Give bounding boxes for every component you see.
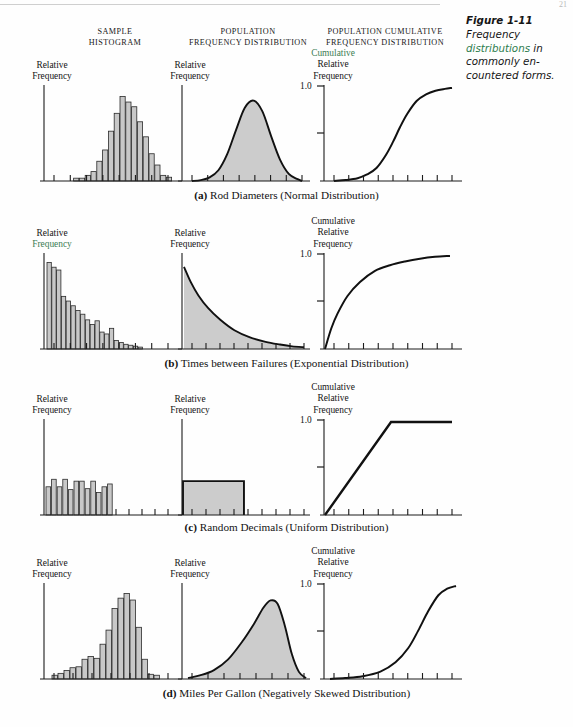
caption-line-2-rest: in [530, 42, 543, 54]
axis-label-relative: Relative [36, 228, 67, 238]
histogram-bars [46, 479, 112, 515]
y-tick-label-c3: 1.0 [300, 415, 312, 425]
chart-d-population-svg [178, 583, 313, 688]
histogram-bar [46, 487, 51, 515]
axis-label-relative: Relative [174, 394, 205, 404]
histogram-bar [105, 334, 109, 349]
axis-label-frequency: Frequency [313, 71, 353, 81]
histogram-bar [112, 609, 117, 680]
axis-label-frequency: Frequency [313, 239, 353, 249]
axis-label-relative: Relative [36, 60, 67, 70]
row-text-a: Rod Diameters (Normal Distribution) [207, 189, 379, 201]
histogram-bar [91, 172, 96, 181]
axis-label-relative: Relative [317, 393, 348, 403]
caption-line-4: countered forms. [466, 69, 555, 81]
chart-a-sample-histogram-svg [40, 85, 185, 190]
histogram-bar [143, 137, 148, 181]
cumulative-curve [325, 422, 452, 515]
histogram-bar [66, 301, 70, 349]
column-heading-line: SAMPLE [45, 26, 185, 37]
cumulative-curve [330, 586, 456, 679]
histogram-bar [118, 598, 123, 679]
caption-keyword: distributions [466, 42, 530, 54]
histogram-bar [97, 161, 102, 181]
histogram-bar [120, 96, 125, 181]
axis-label-cumulative: Cumulative [311, 382, 355, 392]
histogram-bar [76, 667, 81, 679]
chart-c-sample-histogram [40, 419, 185, 524]
y-tick-label-d3: 1.0 [300, 579, 312, 589]
histogram-bar [108, 484, 113, 515]
chart-a-cumulative [320, 85, 465, 190]
histogram-bar [63, 479, 68, 515]
axis-label-frequency: Frequency [32, 405, 72, 415]
histogram-bar [124, 593, 129, 679]
cumulative-curve [325, 256, 450, 349]
axis-label-c3: Cumulative Relative Frequency [288, 382, 378, 416]
chart-d-cumulative [320, 583, 465, 688]
histogram-bar [106, 630, 111, 679]
axis-label-relative: Relative [174, 60, 205, 70]
histogram-bar [57, 487, 62, 515]
axis-label-d3: Cumulative Relative Frequency [288, 546, 378, 580]
histogram-bar [76, 310, 80, 349]
figure-page: 21 SAMPLE HISTOGRAM POPULATION FREQUENCY… [0, 0, 573, 727]
histogram-bar [124, 344, 128, 349]
histogram-bar [155, 165, 160, 181]
histogram-bar [132, 107, 137, 181]
histogram-bars [52, 593, 159, 679]
histogram-bar [100, 644, 105, 679]
axis-label-relative: Relative [317, 557, 348, 567]
y-tick-label-a3: 1.0 [300, 81, 312, 91]
row-tag-d: (d) [163, 687, 177, 699]
chart-b-sample-histogram-svg [40, 253, 185, 358]
axis-label-frequency: Frequency [32, 569, 72, 579]
figure-caption: Figure 1-11 Frequency distributions in c… [466, 14, 571, 82]
axis-label-c1: Relative Frequency [12, 394, 92, 417]
histogram-bar [91, 481, 96, 515]
axis-label-relative: Relative [317, 59, 348, 69]
axis-label-frequency: Frequency [170, 569, 210, 579]
column-heading-population-cumulative: POPULATION CUMULATIVE FREQUENCY DISTRIBU… [305, 26, 465, 48]
histogram-bar [81, 314, 85, 349]
histogram-bar [95, 321, 99, 349]
row-tag-b: (b) [165, 357, 179, 369]
chart-c-cumulative-svg [320, 419, 465, 524]
column-heading-line: POPULATION [168, 26, 328, 37]
chart-b-sample-histogram [40, 253, 185, 358]
axis-label-b2: Relative Frequency [150, 228, 230, 251]
axis-label-relative: Relative [174, 558, 205, 568]
column-heading-population-frequency: POPULATION FREQUENCY DISTRIBUTION [168, 26, 328, 48]
x-axis-ticks [116, 509, 168, 515]
chart-a-cumulative-svg [320, 85, 465, 190]
column-heading-line: FREQUENCY DISTRIBUTION [168, 37, 328, 48]
chart-d-sample-histogram-svg [40, 583, 185, 688]
column-heading-line: HISTOGRAM [45, 37, 185, 48]
axis-label-cumulative: Cumulative [311, 546, 355, 556]
histogram-bar [82, 659, 87, 679]
chart-a-population-normal [178, 85, 313, 190]
caption-line-3: commonly en- [466, 55, 540, 67]
row-caption-a: (a) Rod Diameters (Normal Distribution) [0, 189, 573, 201]
column-heading-sample-histogram: SAMPLE HISTOGRAM [45, 26, 185, 48]
axis-label-frequency: Frequency [170, 239, 210, 249]
x-axis-ticks [334, 509, 452, 515]
row-caption-c: (c) Random Decimals (Uniform Distributio… [0, 521, 573, 533]
caption-line-1: Frequency [466, 28, 520, 40]
axis-label-b3: Cumulative Relative Frequency [288, 216, 378, 250]
axis-label-cumulative: Cumulative [311, 216, 355, 226]
histogram-bar [137, 122, 142, 181]
axis-label-d1: Relative Frequency [12, 558, 92, 581]
chart-b-cumulative [320, 253, 465, 358]
chart-d-sample-histogram [40, 583, 185, 688]
axis-label-frequency: Frequency [313, 405, 353, 415]
histogram-bar [142, 659, 147, 679]
distribution-fill [184, 267, 304, 349]
x-axis-ticks [334, 343, 452, 349]
histogram-bar [96, 492, 101, 515]
page-number: 21 [559, 0, 567, 9]
histogram-bar [57, 270, 61, 349]
axis-label-frequency: Frequency [313, 569, 353, 579]
axis-label-relative: Relative [36, 394, 67, 404]
cumulative-curve [334, 88, 452, 181]
